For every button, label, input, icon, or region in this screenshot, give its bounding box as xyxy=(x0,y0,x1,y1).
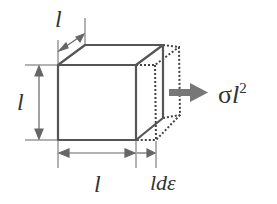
elongation-dimension-arrow xyxy=(137,149,155,157)
cube-front-face xyxy=(58,65,136,140)
cube-side-face xyxy=(136,45,163,140)
force-sigma: σ xyxy=(218,80,232,109)
elongation-label: ldε xyxy=(150,172,176,194)
width-label: l xyxy=(94,172,101,196)
height-label: l xyxy=(17,90,24,114)
strain-cube-diagram: l l l ldε σl2 xyxy=(0,0,277,204)
width-dimension-arrow xyxy=(59,149,135,157)
height-dimension-arrow xyxy=(35,66,43,139)
force-exponent: 2 xyxy=(239,80,247,96)
cube-top-face xyxy=(58,45,163,65)
cube xyxy=(58,45,163,140)
force-label: σl2 xyxy=(218,81,247,108)
depth-label: l xyxy=(55,7,62,31)
force-arrow xyxy=(169,83,208,102)
